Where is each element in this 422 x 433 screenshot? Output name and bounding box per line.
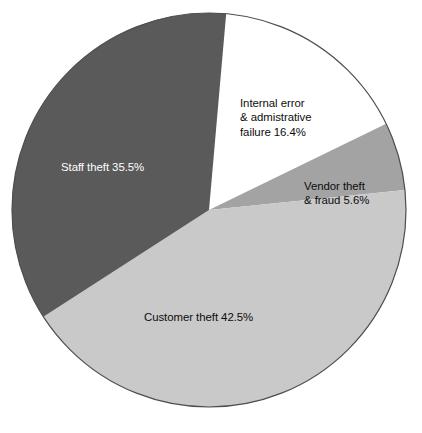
pie-label-customer-theft: Customer theft 42.5% xyxy=(144,310,253,324)
pie-label-internal-error: Internal error & admistrative failure 16… xyxy=(240,96,311,139)
chart-caption xyxy=(0,418,422,433)
pie-chart: Internal error & admistrative failure 16… xyxy=(0,0,422,433)
pie-label-staff-theft: Staff theft 35.5% xyxy=(61,160,144,174)
pie-chart-canvas xyxy=(0,0,422,433)
pie-label-vendor-theft: Vendor theft & fraud 5.6% xyxy=(304,179,369,208)
